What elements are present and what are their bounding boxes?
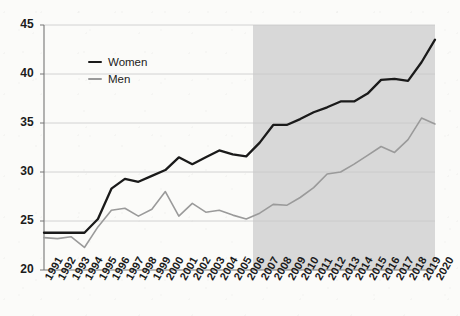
y-axis-tick-label: 40 bbox=[8, 66, 34, 80]
line-chart: 2025303540451991199219931994199519961997… bbox=[0, 0, 460, 316]
legend-item-men[interactable]: Men bbox=[88, 73, 130, 85]
legend-label: Women bbox=[108, 56, 147, 68]
y-axis-tick-label: 30 bbox=[8, 164, 34, 178]
y-axis-tick-label: 45 bbox=[8, 17, 34, 31]
legend-item-women[interactable]: Women bbox=[88, 56, 147, 68]
y-axis-tick-label: 35 bbox=[8, 115, 34, 129]
legend-swatch-women bbox=[88, 61, 102, 64]
shaded-region bbox=[253, 25, 435, 270]
y-axis-tick-label: 20 bbox=[8, 262, 34, 276]
y-axis-tick-label: 25 bbox=[8, 213, 34, 227]
legend-swatch-men bbox=[88, 78, 102, 80]
legend-label: Men bbox=[108, 73, 130, 85]
